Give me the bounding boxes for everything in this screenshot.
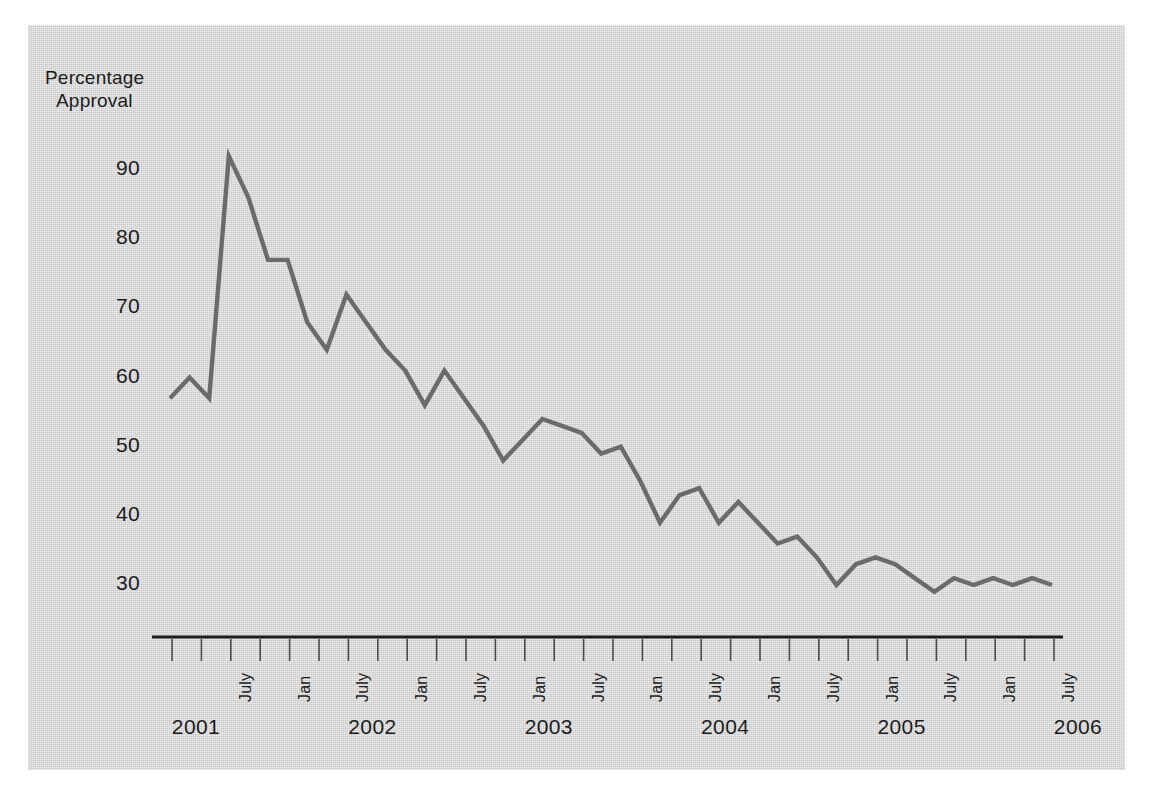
x-axis-month-label: Jan [531, 676, 549, 702]
x-axis-month-label: July [354, 673, 372, 702]
y-axis-tick-label: 60 [84, 364, 140, 388]
chart-plot-area [0, 0, 1164, 797]
x-axis-month-label: July [1060, 673, 1078, 702]
x-axis-month-label: Jan [413, 676, 431, 702]
y-axis-tick-label: 30 [84, 571, 140, 595]
x-axis-year-label: 2001 [168, 715, 224, 739]
approval-data-line [170, 156, 1052, 592]
x-axis-month-label: Jan [296, 676, 314, 702]
x-axis-month-label: July [707, 673, 725, 702]
y-axis-tick-label: 40 [84, 502, 140, 526]
x-axis-month-label: Jan [648, 676, 666, 702]
x-axis-year-label: 2005 [874, 715, 930, 739]
x-axis-tick-marks [172, 639, 1054, 661]
x-axis-month-label: July [825, 673, 843, 702]
x-axis-year-label: 2004 [697, 715, 753, 739]
x-axis-month-label: Jan [884, 676, 902, 702]
y-axis-tick-label: 90 [84, 156, 140, 180]
x-axis-month-label: July [472, 673, 490, 702]
x-axis-month-label: July [942, 673, 960, 702]
y-axis-tick-label: 80 [84, 225, 140, 249]
y-axis-tick-label: 70 [84, 294, 140, 318]
y-axis-tick-label: 50 [84, 433, 140, 457]
x-axis-month-label: Jan [766, 676, 784, 702]
x-axis-year-label: 2003 [521, 715, 577, 739]
chart-figure: PercentageApproval 90807060504030 JulyJa… [0, 0, 1164, 797]
x-axis-month-label: Jan [1001, 676, 1019, 702]
x-axis-year-label: 2006 [1050, 715, 1106, 739]
x-axis-year-label: 2002 [344, 715, 400, 739]
x-axis-month-label: July [590, 673, 608, 702]
x-axis-month-label: July [237, 673, 255, 702]
